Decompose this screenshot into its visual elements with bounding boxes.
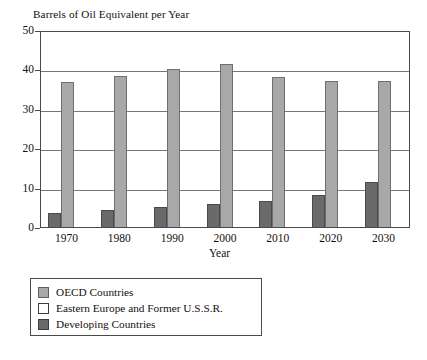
legend-label: Eastern Europe and Former U.S.S.R. — [56, 302, 223, 315]
x-axis-tick-label: 1990 — [149, 232, 195, 244]
y-axis-tickmark — [35, 228, 40, 229]
legend-swatch-developing — [38, 319, 49, 330]
x-axis-tick-label: 2030 — [361, 232, 407, 244]
y-axis-tick-label: 50 — [8, 25, 34, 37]
legend-swatch-oecd — [38, 287, 49, 298]
y-axis-tick-label: 10 — [8, 183, 34, 195]
x-axis-tick-label: 1980 — [96, 232, 142, 244]
y-axis-tickmark — [35, 189, 40, 190]
y-axis-tickmark — [35, 70, 40, 71]
legend-label: Developing Countries — [56, 318, 155, 331]
y-axis-tick-label: 30 — [8, 104, 34, 116]
x-axis-title-text: Year — [209, 247, 230, 259]
y-axis-tickmark — [35, 149, 40, 150]
x-axis-title: Year — [0, 247, 427, 259]
x-axis-tick-label: 2010 — [255, 232, 301, 244]
legend-item: OECD Countries — [38, 284, 261, 300]
x-axis-tick-label: 2000 — [202, 232, 248, 244]
legend-label: OECD Countries — [56, 286, 134, 299]
bar-chart-figure: Barrels of Oil Equivalent per Year 01020… — [0, 0, 427, 360]
x-axis-tick-label: 1970 — [43, 232, 89, 244]
chart-legend: OECD CountriesEastern Europe and Former … — [30, 278, 262, 336]
y-axis-tick-label: 20 — [8, 143, 34, 155]
legend-item: Developing Countries — [38, 316, 261, 332]
y-axis-tickmark — [35, 110, 40, 111]
y-axis-tickmark — [35, 31, 40, 32]
x-axis-tick-label: 2020 — [308, 232, 354, 244]
y-axis-tick-label: 40 — [8, 64, 34, 76]
legend-item: Eastern Europe and Former U.S.S.R. — [38, 300, 261, 316]
legend-swatch-eeussr — [38, 303, 49, 314]
x-axis-tick-labels: 1970198019902000201020202030 — [0, 232, 427, 248]
